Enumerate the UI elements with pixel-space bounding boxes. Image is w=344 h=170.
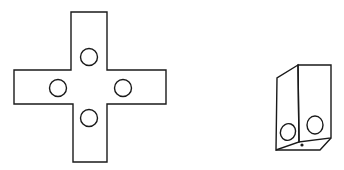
hole-bottom <box>81 110 98 127</box>
hole-right <box>115 80 132 97</box>
box-left-face <box>276 65 299 150</box>
cross-net <box>14 12 166 162</box>
box-hole-left <box>278 121 298 142</box>
cross-outline <box>14 12 166 162</box>
box-front-face <box>298 65 331 142</box>
box-bottom-dot <box>300 143 303 146</box>
box-hole-front <box>307 116 323 134</box>
folded-box <box>276 65 331 150</box>
hole-left <box>50 80 67 97</box>
hole-top <box>81 49 98 66</box>
figure-canvas <box>0 0 344 170</box>
